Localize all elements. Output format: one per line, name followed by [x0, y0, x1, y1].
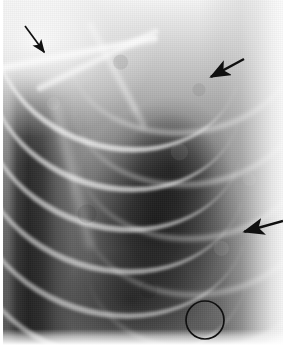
arrow-3 — [244, 221, 283, 232]
arrow-1 — [25, 26, 44, 52]
arrow-2 — [211, 59, 244, 77]
annotation-circle-1 — [186, 301, 224, 339]
annotation-arrow-1 — [0, 0, 283, 353]
annotation-layer — [0, 0, 283, 353]
radiograph-figure — [0, 0, 283, 353]
